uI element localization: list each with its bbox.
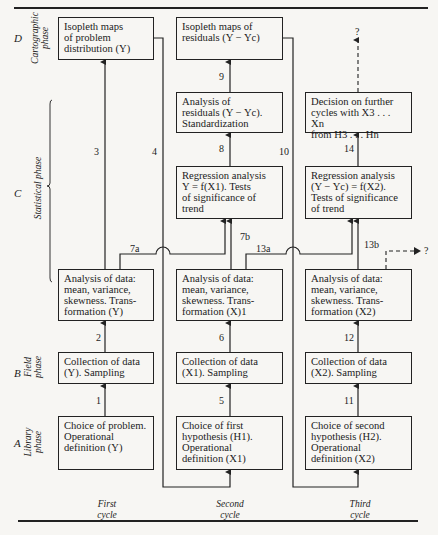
box-analysis-data-x1: Analysis of data: mean, variance, skewne… bbox=[176, 269, 283, 321]
edge-label-14: 14 bbox=[344, 144, 354, 154]
box-choice-first-hypothesis: Choice of first hypothesis (H1). Operati… bbox=[176, 416, 283, 470]
box-analysis-residuals: Analysis of residuals (Y − Yc). Standard… bbox=[176, 92, 283, 133]
box-isopleth-problem: Isopleth maps of problem distribution (Y… bbox=[58, 17, 154, 60]
edge-label-9: 9 bbox=[219, 72, 224, 82]
edge-label-5: 5 bbox=[219, 396, 224, 406]
box-regression-x1: Regression analysis Y = f(X1). Tests of … bbox=[176, 166, 283, 219]
phase-letter-b: B bbox=[14, 367, 21, 379]
phase-letter-c: C bbox=[14, 187, 21, 199]
cycle-label-third: Third cycle bbox=[330, 499, 390, 521]
box-collection-y: Collection of data (Y). Sampling bbox=[58, 352, 154, 384]
edge-label-11: 11 bbox=[344, 396, 354, 406]
phase-name-cartographic: Cartographic phase bbox=[30, 8, 50, 68]
edge-label-question-side: ? bbox=[424, 246, 428, 256]
box-analysis-data-x2: Analysis of data: mean, variance, skewne… bbox=[305, 269, 412, 321]
edge-label-2: 2 bbox=[96, 333, 101, 343]
edge-label-6: 6 bbox=[219, 333, 224, 343]
edge-label-8: 8 bbox=[219, 144, 224, 154]
box-choice-problem: Choice of problem. Operational definitio… bbox=[58, 416, 154, 470]
box-collection-x2: Collection of data (X2). Sampling bbox=[305, 352, 412, 384]
phase-letter-d: D bbox=[14, 32, 22, 44]
edge-label-13b: 13b bbox=[364, 240, 379, 250]
cycle-label-first: First cycle bbox=[77, 499, 137, 521]
box-isopleth-residuals: Isopleth maps of residuals (Y − Yc) bbox=[176, 17, 283, 60]
box-regression-x2: Regression analysis (Y − Yc) = f(X2). Te… bbox=[305, 166, 412, 219]
phase-name-statistical: Statistical phase bbox=[33, 148, 43, 228]
phase-name-library: Library phase bbox=[23, 425, 43, 459]
cycle-label-second: Second cycle bbox=[200, 499, 260, 521]
edge-label-7a: 7a bbox=[130, 244, 139, 254]
edge-label-12: 12 bbox=[344, 333, 354, 343]
box-choice-second-hypothesis: Choice of second hypothesis (H2). Operat… bbox=[305, 416, 412, 470]
edge-label-13a: 13a bbox=[256, 244, 270, 254]
edge-label-question-top: ? bbox=[355, 27, 359, 37]
box-collection-x1: Collection of data (X1). Sampling bbox=[176, 352, 283, 384]
edge-label-3: 3 bbox=[94, 147, 99, 157]
edge-label-1: 1 bbox=[96, 396, 101, 406]
edge-label-4: 4 bbox=[152, 147, 157, 157]
edge-label-7b: 7b bbox=[240, 232, 250, 242]
phase-name-field: Field phase bbox=[23, 352, 43, 382]
box-decision-further-cycles: Decision on further cycles with X3 . . .… bbox=[305, 92, 412, 133]
edge-label-10: 10 bbox=[279, 147, 289, 157]
phase-letter-a: A bbox=[14, 437, 21, 449]
box-analysis-data-y: Analysis of data: mean, variance, skewne… bbox=[58, 269, 154, 321]
